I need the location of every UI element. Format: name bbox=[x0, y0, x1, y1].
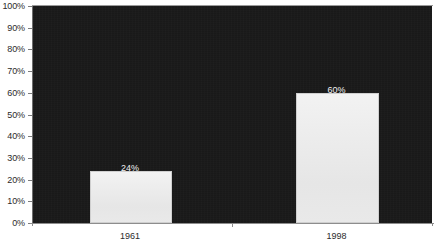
y-tick-label-10: 10% bbox=[7, 195, 25, 207]
y-tick-label-90: 90% bbox=[7, 22, 25, 34]
y-axis: 100% 90% 80% 70% 60% 50% 40% 30% bbox=[0, 0, 32, 250]
y-tick-70: 70% bbox=[0, 65, 32, 77]
y-tick-label-40: 40% bbox=[7, 130, 25, 142]
y-tick-30: 30% bbox=[0, 152, 32, 164]
x-axis-label-1998: 1998 bbox=[295, 230, 378, 242]
y-tick-60: 60% bbox=[0, 87, 32, 99]
x-axis-end-tick bbox=[432, 223, 433, 226]
y-tick-40: 40% bbox=[0, 130, 32, 142]
y-tick-20: 20% bbox=[0, 174, 32, 186]
chart-title-cropped bbox=[0, 0, 438, 3]
data-label-1998: 60% bbox=[295, 85, 378, 96]
bar-chart: 100% 90% 80% 70% 60% 50% 40% 30% bbox=[0, 0, 438, 250]
y-tick-label-80: 80% bbox=[7, 43, 25, 55]
y-tick-label-70: 70% bbox=[7, 65, 25, 77]
y-tick-90: 90% bbox=[0, 22, 32, 34]
bar-1998[interactable] bbox=[296, 93, 379, 223]
x-axis-label-1961: 1961 bbox=[89, 230, 171, 242]
y-tick-label-50: 50% bbox=[7, 109, 25, 121]
y-tick-50: 50% bbox=[0, 109, 32, 121]
plot-area bbox=[32, 6, 432, 223]
x-axis-start-tick bbox=[32, 223, 33, 226]
bar-1961[interactable] bbox=[90, 171, 172, 223]
y-tick-10: 10% bbox=[0, 195, 32, 207]
y-tick-label-60: 60% bbox=[7, 87, 25, 99]
x-axis-category-divider-tick bbox=[232, 223, 233, 227]
y-tick-80: 80% bbox=[0, 43, 32, 55]
y-tick-label-30: 30% bbox=[7, 152, 25, 164]
y-tick-label-20: 20% bbox=[7, 174, 25, 186]
y-tick-label-0: 0% bbox=[12, 217, 25, 229]
y-tick-0: 0% bbox=[0, 217, 32, 229]
y-tick-label-100: 100% bbox=[2, 0, 25, 12]
y-tick-100: 100% bbox=[0, 0, 32, 12]
data-label-1961: 24% bbox=[89, 163, 171, 174]
